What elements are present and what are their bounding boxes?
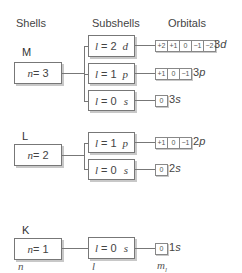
orbitals-3d: +2 +1 0 −1 −2 [155,40,216,52]
connector [62,155,84,156]
shell-box-n3: n = 3 [14,62,62,84]
l-value: = 1 [98,68,117,80]
header-orbitals: Orbitals [168,17,206,29]
orbital-label-2p: 2p [193,135,205,147]
l-value: = 0 [98,242,117,254]
shell-box-n2: n = 2 [14,144,62,166]
header-shells: Shells [16,17,46,29]
shell-letter-k: K [22,224,29,236]
subshell-type: d [123,40,129,52]
orbital-label-1s: 1s [169,241,181,253]
shell-letter-l: L [22,130,28,142]
orbital-ml: 0 [155,243,168,255]
subshell-box-1s: l = 0 s [88,237,135,259]
connector [135,45,155,46]
orbital-label-3s: 3s [169,93,181,105]
connector [135,142,155,143]
subshell-box-2p: l = 1 p [88,132,135,153]
subshell-type: s [124,95,128,107]
connector [135,73,155,74]
orbitals-2p: +1 0 −1 [155,137,192,149]
orbital-label-3p: 3p [193,66,205,78]
subshell-box-2s: l = 0 s [88,159,135,180]
orbitals-3s: 0 [155,95,168,107]
n-value: = 3 [33,67,49,79]
orbital-ml: −1 [179,68,192,80]
connector [135,169,155,170]
orbital-ml: 0 [155,164,168,176]
orbital-ml: 0 [155,95,168,107]
shell-letter-m: M [22,46,31,58]
l-value: = 2 [98,40,117,52]
orbitals-3p: +1 0 −1 [155,68,192,80]
header-subshells: Subshells [92,17,140,29]
connector [62,73,84,74]
subshell-type: s [124,164,128,176]
axis-label-ml: ml [157,259,167,273]
l-value: = 0 [98,95,117,107]
l-value: = 1 [98,137,117,149]
subshell-type: s [124,242,128,254]
subshell-box-3s: l = 0 s [88,90,135,111]
n-value: = 2 [33,149,49,161]
orbital-label-3d: 3d [214,38,226,50]
orbital-ml: −1 [179,137,192,149]
connector [62,248,88,249]
connector [135,248,155,249]
subshell-type: p [123,137,129,149]
axis-label-n: n [18,260,24,272]
axis-label-l: l [92,260,95,272]
connector [135,100,155,101]
subshell-box-3d: l = 2 d [88,35,135,57]
l-value: = 0 [98,164,117,176]
subshell-box-3p: l = 1 p [88,63,135,84]
orbital-label-2s: 2s [169,162,181,174]
orbitals-1s: 0 [155,243,168,255]
shell-box-n1: n = 1 [14,238,62,260]
connector [84,143,85,170]
n-value: = 1 [33,243,49,255]
orbitals-2s: 0 [155,164,168,176]
subshell-type: p [123,68,129,80]
